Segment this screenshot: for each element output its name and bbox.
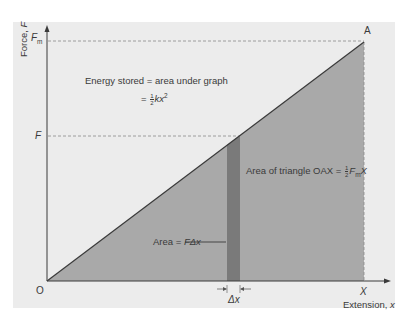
energy-eq-var: kx bbox=[155, 93, 165, 104]
strip-var: FΔx bbox=[184, 236, 201, 247]
triangle-prefix: Area of triangle OAX = bbox=[246, 165, 344, 176]
energy-eq-prefix: = bbox=[141, 93, 149, 104]
y-axis-arrow-icon bbox=[45, 25, 50, 32]
energy-eq-exp: 2 bbox=[164, 92, 168, 99]
energy-equation: = 12kx2 bbox=[141, 93, 168, 106]
x-axis-label-var: x bbox=[390, 299, 395, 310]
tri-half-den: 2 bbox=[345, 172, 348, 178]
area-strip bbox=[227, 135, 240, 281]
point-a-label: A bbox=[364, 26, 371, 36]
half-fraction: 12 bbox=[150, 93, 153, 106]
y-axis-label-text: Force, bbox=[18, 27, 29, 57]
x-axis-arrow-icon bbox=[384, 279, 391, 284]
x-point-label: X bbox=[360, 287, 367, 297]
f-label: F bbox=[35, 131, 41, 141]
x-axis-label: Extension, x bbox=[343, 300, 395, 310]
graph-svg bbox=[0, 0, 410, 320]
energy-stored-text: Energy stored = area under graph bbox=[85, 76, 228, 86]
half-den: 2 bbox=[150, 100, 153, 106]
triangle-half-fraction: 12 bbox=[345, 165, 348, 178]
triangle-x: X bbox=[361, 165, 367, 176]
delta-left-arrow-icon bbox=[223, 287, 227, 291]
delta-x-label: Δx bbox=[228, 295, 240, 305]
origin-label: O bbox=[36, 286, 44, 296]
delta-right-arrow-icon bbox=[240, 287, 244, 291]
triangle-area-text: Area of triangle OAX = 12FmX bbox=[246, 165, 367, 178]
fm-label-sub: m bbox=[37, 38, 42, 45]
y-axis-label: Force, F bbox=[19, 22, 29, 57]
strip-area-text: Area = FΔx bbox=[153, 237, 201, 247]
y-axis-label-var: F bbox=[18, 22, 29, 28]
fm-label: Fm bbox=[31, 33, 43, 46]
strip-prefix: Area = bbox=[153, 236, 184, 247]
x-axis-label-text: Extension, bbox=[343, 299, 390, 310]
tri-half-num: 1 bbox=[345, 165, 348, 172]
half-num: 1 bbox=[150, 93, 153, 100]
